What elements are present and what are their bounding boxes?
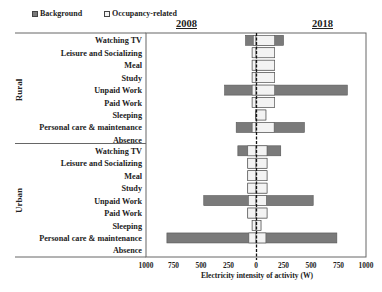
x-tick-label: 500 xyxy=(305,261,316,270)
bar-2008-occupancy xyxy=(252,221,256,231)
bar-2018-occupancy xyxy=(256,85,275,95)
bar-2018-occupancy xyxy=(256,171,267,181)
bar-2008-background xyxy=(225,85,256,95)
bar-2008-occupancy xyxy=(248,158,256,168)
x-axis-title: Electricity intensity of activity (W) xyxy=(201,271,314,280)
category-label: Unpaid Work xyxy=(94,197,142,206)
category-label: Personal care & maintenance xyxy=(39,123,142,132)
category-label: Unpaid Work xyxy=(94,86,142,95)
bar-2018-background xyxy=(256,233,337,243)
category-label: Watching TV xyxy=(95,36,142,45)
bar-2008-occupancy xyxy=(248,208,256,218)
category-label: Personal care & maintenance xyxy=(39,234,142,243)
category-label: Sleeping xyxy=(112,222,142,231)
category-label: Sleeping xyxy=(112,111,142,120)
bar-2018-occupancy xyxy=(256,158,267,168)
bar-2008-occupancy xyxy=(248,196,256,206)
bar-2008-occupancy xyxy=(248,146,256,156)
bar-2008-occupancy xyxy=(252,73,256,83)
bar-2018-occupancy xyxy=(256,60,275,70)
bar-2008-occupancy xyxy=(248,183,256,193)
x-tick-label: 0 xyxy=(254,261,258,270)
bar-2008-background xyxy=(167,233,256,243)
bar-2008-occupancy xyxy=(252,85,256,95)
bar-2018-occupancy xyxy=(256,48,275,58)
category-label: Meal xyxy=(124,172,142,181)
bar-2018-occupancy xyxy=(256,73,275,83)
category-label: Leisure and Socializing xyxy=(61,49,143,58)
bar-2008-occupancy xyxy=(252,48,256,58)
bar-2008-occupancy xyxy=(249,233,256,243)
category-label: Leisure and Socializing xyxy=(61,159,143,168)
group-label-urban: Urban xyxy=(14,188,24,213)
bar-2018-occupancy xyxy=(256,196,266,206)
category-label: Absence xyxy=(113,136,142,145)
category-label: Paid Work xyxy=(104,209,142,218)
bar-2018-occupancy xyxy=(256,183,267,193)
x-tick-label: 250 xyxy=(278,261,289,270)
x-tick-label: 750 xyxy=(168,261,179,270)
bar-2008-occupancy xyxy=(253,35,256,45)
bar-2018-occupancy xyxy=(256,122,274,132)
x-tick-label: 500 xyxy=(195,261,206,270)
category-label: Meal xyxy=(124,61,142,70)
bar-2018-occupancy xyxy=(256,110,266,120)
bar-2018-occupancy xyxy=(256,35,275,45)
group-label-rural: Rural xyxy=(14,78,24,101)
category-label: Absence xyxy=(113,246,142,255)
x-tick-label: 750 xyxy=(333,261,344,270)
bar-2008-occupancy xyxy=(248,171,256,181)
category-label: Paid Work xyxy=(104,99,142,108)
chart-area: RuralWatching TVLeisure and SocializingM… xyxy=(0,0,382,292)
category-label: Study xyxy=(122,184,143,193)
bar-2008-occupancy xyxy=(252,98,256,108)
bar-2008-occupancy xyxy=(252,60,256,70)
bar-2018-occupancy xyxy=(256,208,267,218)
x-tick-label: 250 xyxy=(223,261,234,270)
bar-2018-occupancy xyxy=(256,233,266,243)
x-tick-label: 1000 xyxy=(359,261,374,270)
bar-2018-occupancy xyxy=(256,98,275,108)
category-label: Watching TV xyxy=(95,147,142,156)
bar-2018-occupancy xyxy=(256,146,267,156)
category-label: Study xyxy=(122,74,143,83)
bar-2008-occupancy xyxy=(252,122,256,132)
x-tick-label: 1000 xyxy=(139,261,154,270)
